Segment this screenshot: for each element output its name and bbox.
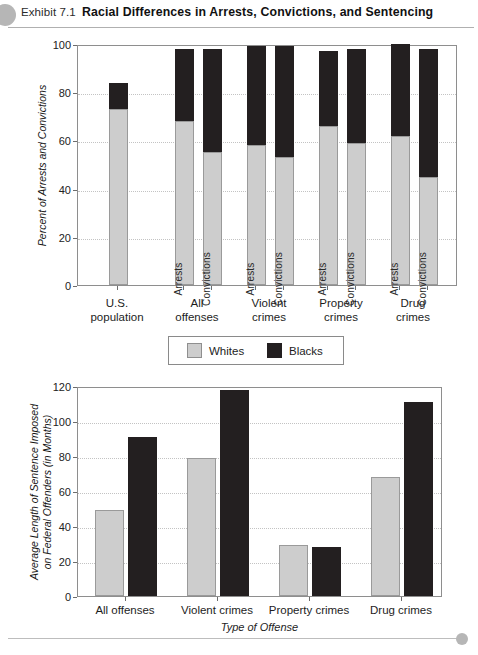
y-axis-tick-label: 40 — [47, 184, 71, 196]
bar-blacks — [128, 437, 157, 596]
x-axis-tick-mark — [217, 597, 218, 601]
legend-item: Blacks — [267, 343, 323, 358]
bar-segment-blacks — [347, 49, 366, 143]
page-footer-divider — [8, 638, 466, 639]
x-axis-tick-mark — [355, 286, 356, 290]
x-axis-tick-mark — [255, 286, 256, 290]
bar-segment-whites: Convictions — [275, 157, 294, 285]
bar-blacks — [220, 390, 249, 597]
bar-whites — [371, 477, 400, 596]
legend-swatch — [267, 343, 282, 358]
bar-segment-whites: Convictions — [203, 152, 222, 285]
bar-whites — [279, 545, 308, 596]
y-axis-tick-label: 0 — [47, 280, 71, 292]
chart-legend: WhitesBlacks — [168, 336, 344, 365]
header-divider — [8, 27, 474, 28]
x-axis-tick-mark — [125, 597, 126, 601]
legend-item: Whites — [187, 343, 244, 358]
y-axis-tick-mark — [73, 286, 77, 287]
bar-segment-blacks — [319, 51, 338, 126]
x-axis-tick-mark — [211, 286, 212, 290]
bar-inner-label: Arrests — [173, 262, 184, 295]
bar-segment-blacks — [419, 49, 438, 177]
y-axis-tick-label: 40 — [45, 521, 71, 533]
exhibit-header: Exhibit 7.1 Racial Differences in Arrest… — [0, 0, 478, 30]
y-axis-tick-label: 20 — [47, 232, 71, 244]
y-axis-tick-mark — [73, 597, 77, 598]
bottom-chart-plot-area — [77, 387, 442, 597]
legend-label: Whites — [209, 345, 244, 357]
exhibit-title: Racial Differences in Arrests, Convictio… — [82, 5, 433, 19]
x-axis-tick-mark — [183, 286, 184, 290]
bar-segment-whites: Convictions — [347, 143, 366, 285]
header-bullet-icon — [0, 4, 16, 26]
gridline — [78, 423, 441, 424]
bar-inner-label: Arrests — [245, 262, 256, 295]
y-axis-tick-label: 0 — [45, 591, 71, 603]
category-label-line1: Drug — [358, 296, 468, 310]
x-axis-tick-mark — [309, 597, 310, 601]
bottom-chart-x-axis-title: Type of Offense — [205, 621, 315, 633]
bar-segment-whites: Arrests — [175, 121, 194, 285]
bar-segment-blacks — [391, 44, 410, 136]
bar-blacks — [312, 547, 341, 596]
bar-segment-blacks — [203, 49, 222, 153]
y-axis-tick-label: 20 — [45, 556, 71, 568]
y-axis-tick-label: 80 — [47, 87, 71, 99]
bar-segment-whites: Arrests — [247, 145, 266, 285]
x-axis-tick-mark — [427, 286, 428, 290]
exhibit-number-label: Exhibit 7.1 — [21, 6, 76, 18]
bar-segment-blacks — [275, 46, 294, 157]
y-axis-tick-label: 100 — [45, 416, 71, 428]
bar-blacks — [404, 402, 433, 596]
bar-segment-blacks — [247, 46, 266, 145]
bar-segment-whites: Arrests — [391, 136, 410, 285]
bar-whites — [95, 510, 124, 596]
bar-segment-whites: Arrests — [319, 126, 338, 285]
legend-label: Blacks — [289, 345, 323, 357]
top-chart-plot-area: ArrestsConvictionsArrestsConvictionsArre… — [77, 45, 457, 286]
x-axis-category-label: Drug crimes — [346, 603, 456, 617]
bar-segment-whites — [109, 109, 128, 285]
bar-inner-label: Arrests — [389, 262, 400, 295]
y-axis-tick-label: 80 — [45, 451, 71, 463]
y-axis-tick-label: 60 — [47, 135, 71, 147]
bar-segment-whites: Convictions — [419, 177, 438, 285]
category-label-line2: crimes — [358, 310, 468, 324]
bar-inner-label: Arrests — [317, 262, 328, 295]
x-axis-tick-mark — [283, 286, 284, 290]
x-axis-tick-mark — [399, 286, 400, 290]
y-axis-tick-label: 60 — [45, 486, 71, 498]
x-axis-tick-mark — [327, 286, 328, 290]
page-footer-bullet-icon — [456, 633, 468, 645]
x-axis-category-label: Drugcrimes — [358, 296, 468, 324]
bar-segment-blacks — [109, 83, 128, 110]
y-axis-tick-label: 120 — [45, 381, 71, 393]
bar-segment-blacks — [175, 49, 194, 121]
x-axis-tick-mark — [117, 286, 118, 290]
x-axis-tick-mark — [401, 597, 402, 601]
y-axis-title-line1: Average Length of Sentence Imposed — [28, 387, 41, 597]
y-axis-tick-label: 100 — [47, 39, 71, 51]
bar-whites — [187, 458, 216, 596]
top-chart-y-axis-title: Percent of Arrests and Convictions — [36, 45, 49, 286]
legend-swatch — [187, 343, 202, 358]
